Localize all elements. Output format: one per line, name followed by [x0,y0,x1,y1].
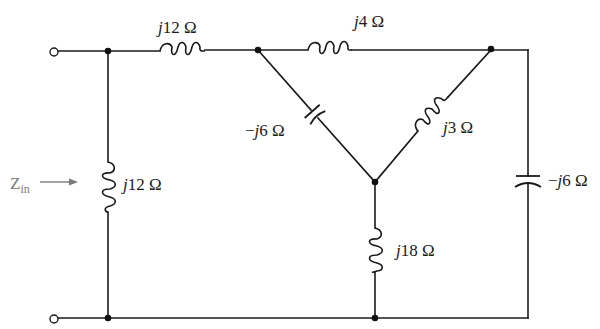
label-right-capacitor: −j6 Ω [548,171,588,190]
capacitor-diag-left [305,105,326,125]
label-diag-right-inductor: j3 Ω [441,118,473,137]
terminal-top [50,48,58,56]
zin-label: Zin [10,174,30,196]
node-top-left [105,48,112,55]
diag-right-wire-b [375,131,418,182]
node-center [372,179,379,186]
label-center-inductor: j18 Ω [394,241,435,260]
inductor-top-series [160,43,205,55]
node-bottom-center [372,315,379,322]
top-rail [58,50,528,51]
diag-left-wire-b [318,118,375,182]
diag-left-wire-a [258,50,311,110]
inductor-left-shunt [103,162,116,212]
label-top-series-inductor: j12 Ω [156,18,197,37]
label-diag-left-capacitor: −j6 Ω [245,121,285,140]
label-top-delta-inductor: j4 Ω [352,12,384,31]
terminal-bottom [50,315,58,323]
zin-indicator: Zin [10,174,78,196]
circuit-diagram: Zin j12 Ω j4 Ω j12 Ω −j6 Ω j3 Ω j18 Ω −j… [0,0,600,329]
label-left-shunt-inductor: j12 Ω [121,175,162,194]
inductor-center-down [370,228,383,272]
node-bottom-left [105,315,112,322]
arrowhead-icon [69,179,78,186]
inductor-top-delta [308,42,352,54]
node-top-right [488,46,495,53]
diag-right-wire-a [448,50,491,97]
node-top-mid [255,47,262,54]
